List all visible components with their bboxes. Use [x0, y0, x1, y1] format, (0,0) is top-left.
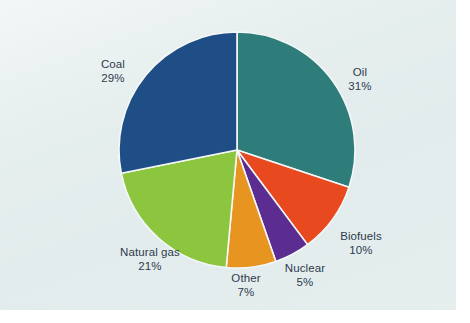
pie-label-natural-gas: Natural gas 21% — [100, 246, 200, 273]
pie-label-natural-gas-value: 21% — [100, 260, 200, 274]
pie-label-coal-value: 29% — [78, 72, 148, 86]
pie-label-oil-name: Oil — [325, 66, 395, 80]
pie-label-other-value: 7% — [218, 286, 274, 300]
pie-label-oil: Oil 31% — [325, 66, 395, 93]
pie-label-biofuels-value: 10% — [318, 244, 404, 258]
pie-label-other: Other 7% — [218, 272, 274, 299]
chart-figure: Oil 31% Biofuels 10% Nuclear 5% Other 7%… — [0, 0, 470, 323]
pie-slice-coal — [119, 32, 237, 173]
pie-label-oil-value: 31% — [325, 80, 395, 94]
pie-label-nuclear-name: Nuclear — [274, 262, 336, 276]
pie-label-biofuels: Biofuels 10% — [318, 230, 404, 257]
pie-label-nuclear: Nuclear 5% — [274, 262, 336, 289]
pie-label-coal-name: Coal — [78, 58, 148, 72]
pie-label-natural-gas-name: Natural gas — [100, 246, 200, 260]
pie-label-biofuels-name: Biofuels — [318, 230, 404, 244]
pie-label-coal: Coal 29% — [78, 58, 148, 85]
pie-label-nuclear-value: 5% — [274, 276, 336, 290]
pie-label-other-name: Other — [218, 272, 274, 286]
